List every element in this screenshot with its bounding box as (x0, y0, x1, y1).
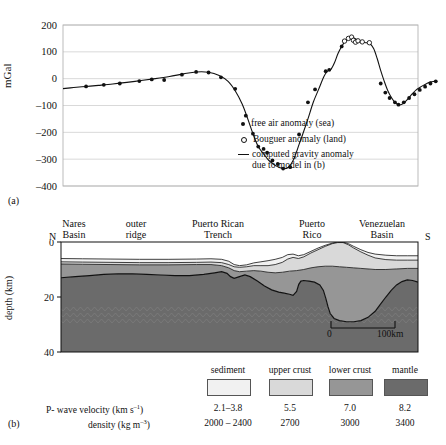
y-tick-label: –300 (35, 154, 57, 165)
legend-label-computed: computed gravity anomaly (252, 150, 354, 160)
key-swatch (207, 379, 251, 396)
bouguer-anomaly-points (342, 35, 371, 45)
filled-circle-icon (241, 122, 245, 126)
legend-label-free-air: free air anomaly (sea) (251, 119, 334, 129)
line-swatch-icon (238, 154, 249, 155)
key-density-value: 3400 (396, 419, 415, 429)
key-swatch (329, 379, 373, 396)
key-density-value: 2700 (281, 419, 300, 429)
legend-label-computed-cont: due to model in (b) (252, 160, 325, 170)
key-density-value: 2000 – 2400 (204, 419, 252, 429)
chart-legend: free air anomaly (sea) Bouguer anomaly (… (238, 117, 354, 173)
y-tick-label: 200 (41, 20, 57, 31)
density-exponent: –3 (140, 418, 147, 425)
panel-a-tag: (a) (8, 196, 19, 206)
free-air-point (150, 78, 154, 82)
free-air-point (393, 100, 397, 104)
depth-tick-label: 0 (49, 240, 54, 248)
free-air-point (379, 82, 383, 86)
key-swatch (384, 379, 428, 396)
y-tick-label: –100 (35, 100, 57, 111)
legend-label-bouguer: Bouguer anomaly (land) (253, 135, 346, 145)
scale-bar-label-right: 100km (377, 330, 403, 340)
feature-label-line1: outer (126, 218, 147, 229)
feature-label: outerridge (126, 218, 147, 240)
bouguer-point (367, 41, 371, 45)
key-velocity-value: 2.1–3.8 (214, 404, 243, 414)
feature-label-line2: Basin (359, 229, 405, 240)
feature-label-line2: Basin (62, 229, 85, 240)
feature-label-line1: Puerto Rican (192, 218, 244, 229)
free-air-point (194, 70, 198, 74)
key-density-value: 3000 (341, 419, 360, 429)
feature-label: PuertoRico (299, 218, 325, 240)
free-air-point (402, 100, 406, 104)
key-column-name: upper crust (269, 366, 311, 376)
feature-label: NaresBasin (62, 218, 85, 240)
free-air-point (340, 45, 344, 49)
figure-root: 2001000–100–200–300–400 mGal free air an… (0, 0, 446, 445)
free-air-point (388, 96, 392, 100)
free-air-point (219, 75, 223, 79)
free-air-point (306, 100, 310, 104)
legend-item-bouguer: Bouguer anomaly (land) (238, 131, 354, 148)
free-air-point (397, 103, 401, 107)
free-air-point (423, 85, 427, 89)
feature-label-line1: Nares (62, 218, 85, 229)
free-air-point (324, 69, 328, 73)
key-swatch (269, 379, 313, 396)
free-air-point (118, 82, 122, 86)
feature-label-line2: Trench (192, 229, 244, 240)
free-air-point (434, 79, 438, 83)
velocity-exponent: –1 (134, 403, 141, 410)
key-velocity-value: 8.2 (399, 404, 411, 414)
key-velocity-value: 5.5 (284, 404, 296, 414)
section-body (61, 242, 418, 352)
chart-y-tick-labels: 2001000–100–200–300–400 (35, 20, 57, 192)
free-air-point (233, 87, 237, 91)
feature-label-line1: Venezuelan (359, 218, 405, 229)
legend-item-free-air: free air anomaly (sea) (238, 117, 354, 131)
key-column-name: lower crust (329, 366, 371, 376)
free-air-point (84, 85, 88, 89)
free-air-point (313, 88, 317, 92)
panel-a-gravity-chart: 2001000–100–200–300–400 (0, 0, 446, 205)
free-air-point (180, 73, 184, 77)
section-depth-ticks: 02040 (44, 240, 61, 358)
free-air-point (327, 68, 331, 72)
key-column-name: mantle (392, 366, 418, 376)
free-air-point (407, 96, 411, 100)
free-air-point (207, 71, 211, 75)
y-tick-label: 100 (41, 46, 57, 57)
free-air-point (418, 88, 422, 92)
panel-a-ylabel: mGal (2, 64, 13, 88)
free-air-point (383, 91, 387, 95)
panel-b-ylabel: depth (km) (4, 276, 14, 320)
feature-label: VenezuelanBasin (359, 218, 405, 240)
free-air-point (137, 79, 141, 83)
panel-b-tag: (b) (8, 419, 20, 429)
key-row-label-density: density (kg m–3) (88, 419, 150, 431)
feature-label-line2: Rico (299, 229, 325, 240)
key-column-name: sediment (211, 366, 245, 376)
bouguer-point (356, 39, 360, 43)
y-tick-label: 0 (52, 73, 57, 84)
free-air-point (162, 78, 166, 82)
key-row-label-velocity: P- wave velocity (km s–1) (46, 404, 143, 416)
y-tick-label: –200 (35, 127, 57, 138)
free-air-point (429, 82, 433, 86)
bouguer-point (360, 40, 364, 44)
free-air-point (102, 83, 106, 87)
panel-b-crustal-section: 02040 (0, 240, 446, 370)
y-tick-label: –400 (35, 181, 57, 192)
free-air-point (413, 92, 417, 96)
open-circle-icon (241, 137, 247, 143)
depth-tick-label: 20 (44, 292, 54, 303)
legend-item-computed-line2: due to model in (b) (238, 161, 354, 173)
feature-label-line2: ridge (126, 229, 147, 240)
scale-bar-label-left: 0 (327, 330, 332, 340)
feature-label-line1: Puerto (299, 218, 325, 229)
depth-tick-label: 40 (44, 347, 54, 358)
key-velocity-value: 7.0 (344, 404, 356, 414)
feature-label: Puerto RicanTrench (192, 218, 244, 240)
